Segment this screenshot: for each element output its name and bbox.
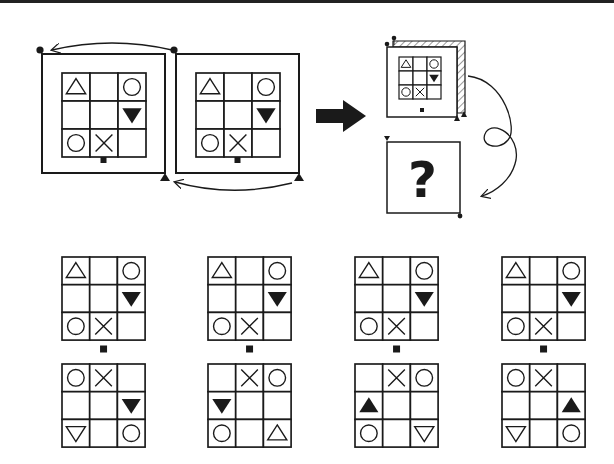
- frame-2: [170, 46, 304, 181]
- grid-cell: [383, 285, 411, 313]
- grid-cell: [410, 419, 438, 447]
- grid-cell: [252, 73, 280, 101]
- grid-cell: [62, 101, 90, 129]
- option-bottom-grid: [355, 364, 438, 447]
- option-bottom-grid: [208, 364, 291, 447]
- grid-cell: [413, 57, 427, 71]
- grid-cell: [557, 257, 585, 285]
- grid-cell: [502, 364, 530, 392]
- grid-cell: [62, 364, 90, 392]
- curved-arrow-bottom-icon: [175, 182, 292, 190]
- grid-cell: [90, 392, 118, 420]
- option-bottom-grid: [502, 364, 585, 447]
- grid-cell: [208, 285, 236, 313]
- grid-cell: [196, 129, 224, 157]
- grid-cell: [118, 129, 146, 157]
- grid-cell: [355, 419, 383, 447]
- grid-cell: [208, 257, 236, 285]
- grid-cell: [502, 285, 530, 313]
- option-top-grid: [355, 257, 438, 340]
- dot-corner-icon: [385, 42, 390, 47]
- square-marker-icon: [101, 157, 107, 163]
- grid-cell: [252, 129, 280, 157]
- grid-cell: [557, 419, 585, 447]
- option-top-grid: [208, 257, 291, 340]
- grid-cell: [90, 257, 118, 285]
- folded-symbol-grid: [399, 57, 441, 99]
- option-top-grid: [62, 257, 145, 340]
- grid-cell: [117, 312, 145, 340]
- folded-panel: [385, 36, 467, 121]
- grid-cell: [413, 71, 427, 85]
- grid-cell: [263, 257, 291, 285]
- grid-cell: [502, 419, 530, 447]
- grid-cell: [263, 312, 291, 340]
- option-b[interactable]: [208, 257, 291, 447]
- grid-cell: [62, 419, 90, 447]
- puzzle-canvas: ?: [0, 0, 614, 464]
- grid-cell: [383, 257, 411, 285]
- right-arrow-icon: [316, 100, 366, 132]
- grid-cell: [355, 364, 383, 392]
- grid-cell: [557, 312, 585, 340]
- grid-cell: [502, 312, 530, 340]
- option-bottom-grid: [62, 364, 145, 447]
- grid-cell: [530, 285, 558, 313]
- unknown-panel: ?: [384, 136, 462, 218]
- grid-cell: [236, 419, 264, 447]
- option-d[interactable]: [502, 257, 585, 447]
- grid-cell: [399, 85, 413, 99]
- grid-cell: [355, 285, 383, 313]
- grid-cell: [90, 419, 118, 447]
- grid-cell: [62, 73, 90, 101]
- grid-cell: [62, 392, 90, 420]
- grid-cell: [410, 257, 438, 285]
- grid-cell: [90, 285, 118, 313]
- grid-cell: [90, 73, 118, 101]
- grid-cell: [236, 257, 264, 285]
- square-marker-icon: [420, 108, 424, 112]
- grid-cell: [383, 419, 411, 447]
- triangle-corner-icon: [160, 173, 170, 181]
- answer-options: [62, 257, 585, 447]
- square-marker-icon: [246, 346, 253, 353]
- square-marker-icon: [540, 346, 547, 353]
- option-a[interactable]: [62, 257, 145, 447]
- loop-arrow-icon: [468, 76, 516, 196]
- grid-cell: [263, 392, 291, 420]
- square-marker-icon: [100, 346, 107, 353]
- grid-cell: [355, 312, 383, 340]
- grid-cell: [236, 285, 264, 313]
- grid-cell: [208, 364, 236, 392]
- grid-cell: [502, 257, 530, 285]
- grid-cell: [196, 101, 224, 129]
- dot-corner-icon: [36, 46, 43, 53]
- grid-cell: [117, 419, 145, 447]
- grid-cell: [530, 257, 558, 285]
- grid-cell: [196, 73, 224, 101]
- grid-cell: [410, 392, 438, 420]
- grid-cell: [383, 392, 411, 420]
- grid-cell: [427, 85, 441, 99]
- grid-cell: [502, 392, 530, 420]
- grid-cell: [410, 364, 438, 392]
- grid-cell: [118, 73, 146, 101]
- grid-cell: [557, 364, 585, 392]
- grid-cell: [236, 392, 264, 420]
- grid-cell: [62, 312, 90, 340]
- grid-cell: [224, 101, 252, 129]
- grid-cell: [427, 57, 441, 71]
- option-c[interactable]: [355, 257, 438, 447]
- grid-cell: [224, 73, 252, 101]
- grid-cell: [410, 312, 438, 340]
- dot-corner-icon: [458, 214, 463, 219]
- symbol-grid: [196, 73, 280, 157]
- grid-cell: [530, 392, 558, 420]
- grid-cell: [530, 419, 558, 447]
- curved-arrow-top-icon: [52, 43, 172, 50]
- grid-cell: [117, 364, 145, 392]
- square-marker-icon: [393, 346, 400, 353]
- square-marker-icon: [235, 157, 241, 163]
- frame-1: [36, 46, 170, 181]
- grid-cell: [208, 419, 236, 447]
